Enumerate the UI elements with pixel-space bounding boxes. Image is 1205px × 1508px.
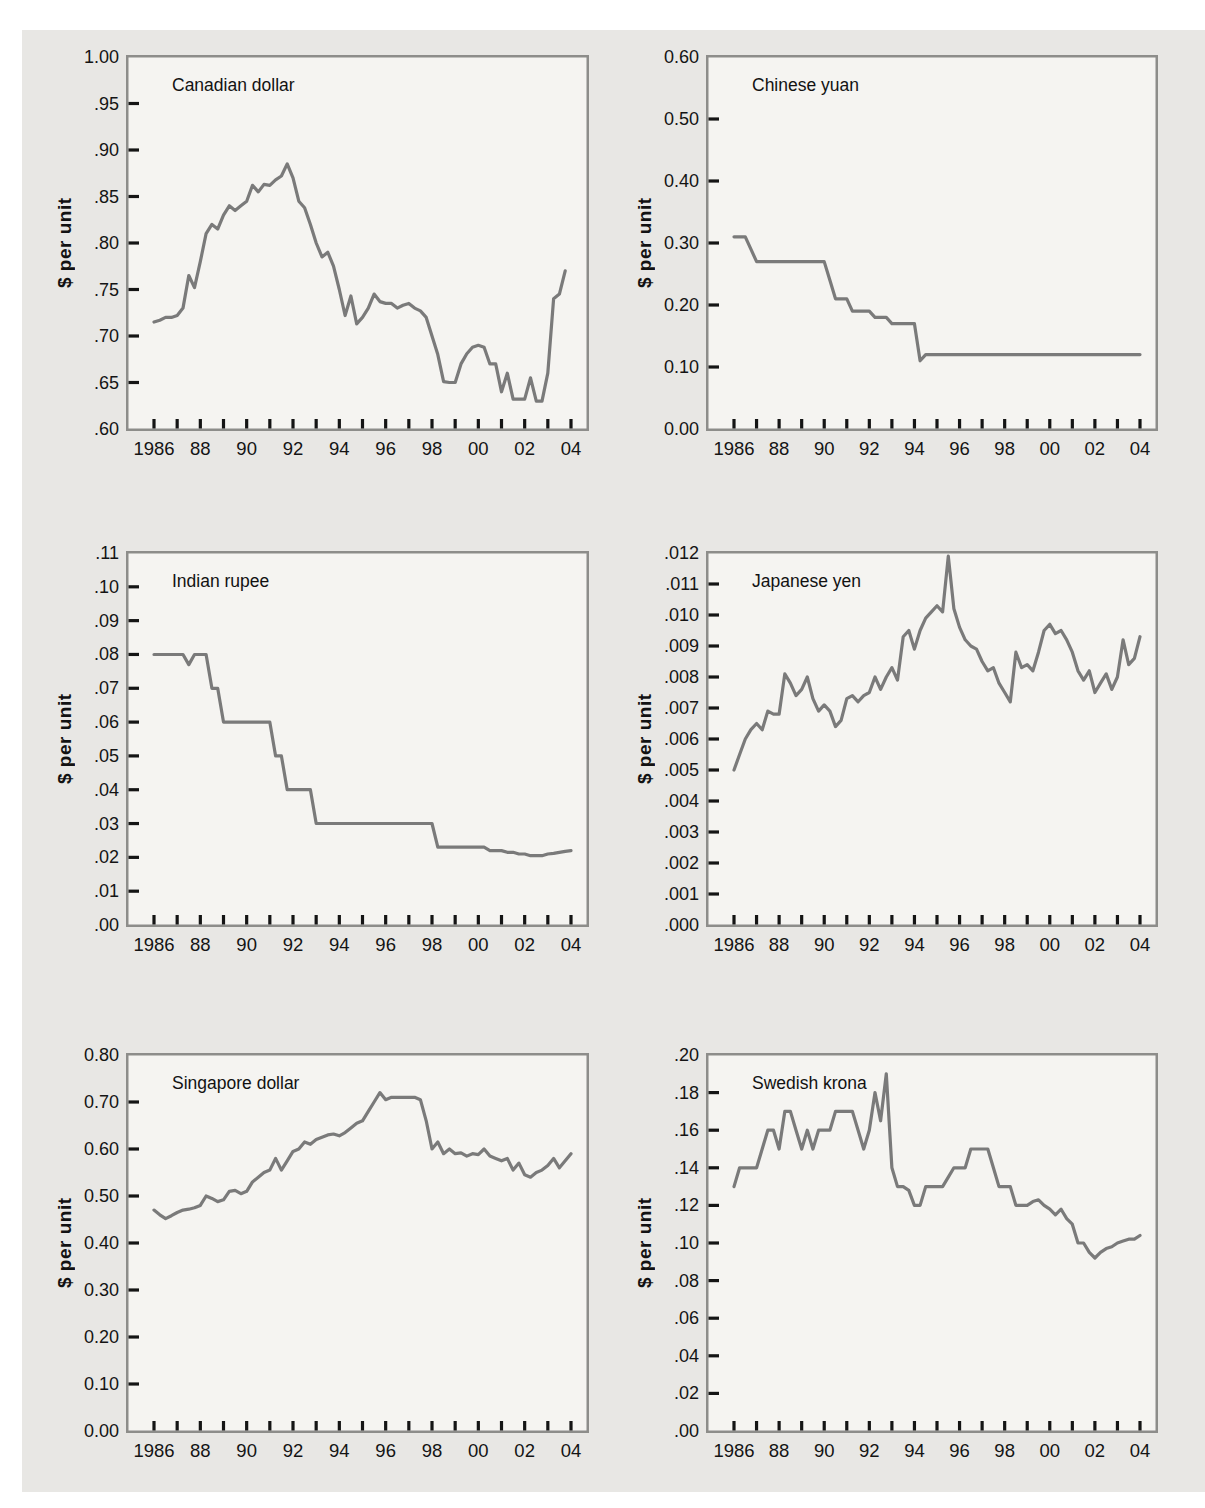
y-tick-label: 0.10 [84, 1373, 119, 1395]
y-axis-tick-labels: .20.18.16.14.12.10.08.06.04.02.00 [656, 1053, 706, 1433]
chart-title: Chinese yuan [752, 75, 859, 96]
plot-frame [707, 552, 1157, 926]
x-tick-label: 92 [283, 438, 304, 460]
y-axis-tick-labels: 0.800.700.600.500.400.300.200.100.00 [76, 1053, 126, 1433]
x-tick-label: 90 [814, 1440, 835, 1462]
x-tick-label: 02 [1085, 438, 1106, 460]
x-tick-label: 98 [422, 438, 443, 460]
x-tick-label: 88 [190, 1440, 211, 1462]
x-tick-label: 1986 [133, 934, 174, 956]
x-tick-label: 88 [769, 934, 790, 956]
y-tick-label: .06 [94, 711, 119, 733]
y-tick-label: .90 [94, 139, 119, 161]
x-tick-label: 92 [859, 934, 880, 956]
y-axis-label: $ per unit [52, 551, 78, 927]
x-tick-label: 98 [422, 934, 443, 956]
x-tick-label: 98 [994, 934, 1015, 956]
x-tick-label: 94 [329, 934, 350, 956]
y-tick-label: .004 [664, 790, 699, 812]
x-tick-label: 02 [514, 1440, 535, 1462]
x-tick-label: 98 [994, 438, 1015, 460]
x-tick-label: 92 [283, 934, 304, 956]
y-tick-label: .06 [674, 1307, 699, 1329]
y-tick-label: .16 [674, 1119, 699, 1141]
y-tick-label: .006 [664, 728, 699, 750]
x-tick-label: 88 [769, 438, 790, 460]
y-axis-tick-labels: 1.00.95.90.85.80.75.70.65.60 [76, 55, 126, 431]
plot-frame [707, 56, 1157, 430]
y-tick-label: 0.10 [664, 356, 699, 378]
x-tick-label: 90 [814, 438, 835, 460]
y-tick-label: .10 [674, 1232, 699, 1254]
x-tick-label: 00 [1039, 1440, 1060, 1462]
y-tick-label: .95 [94, 93, 119, 115]
x-tick-label: 96 [949, 934, 970, 956]
x-tick-label: 90 [236, 438, 257, 460]
y-tick-label: .005 [664, 759, 699, 781]
y-tick-label: .08 [674, 1270, 699, 1292]
x-tick-label: 02 [1085, 934, 1106, 956]
x-tick-label: 04 [1130, 934, 1151, 956]
x-tick-label: 1986 [713, 934, 754, 956]
series-line [734, 1074, 1140, 1258]
x-tick-label: 1986 [713, 438, 754, 460]
y-tick-label: .14 [674, 1157, 699, 1179]
y-tick-label: 0.70 [84, 1091, 119, 1113]
y-tick-label: .09 [94, 610, 119, 632]
y-tick-label: .80 [94, 232, 119, 254]
x-axis-tick-labels: 1986889092949698000204 [706, 929, 1158, 961]
y-tick-label: .04 [94, 779, 119, 801]
x-tick-label: 04 [561, 1440, 582, 1462]
x-axis-tick-labels: 1986889092949698000204 [706, 433, 1158, 465]
y-axis-tick-labels: 0.600.500.400.300.200.100.00 [656, 55, 706, 431]
y-tick-label: .002 [664, 852, 699, 874]
plot-frame [127, 56, 588, 430]
y-tick-label: .20 [674, 1044, 699, 1066]
y-tick-label: 0.20 [664, 294, 699, 316]
x-tick-label: 04 [561, 934, 582, 956]
x-tick-label: 90 [236, 934, 257, 956]
y-tick-label: 0.60 [84, 1138, 119, 1160]
plot-wrap: Canadian dollar 1986889092949698000204 [126, 55, 589, 431]
y-tick-label: .00 [674, 1420, 699, 1442]
x-tick-label: 92 [283, 1440, 304, 1462]
y-tick-label: .000 [664, 914, 699, 936]
y-axis-label: $ per unit [632, 1053, 658, 1433]
x-tick-label: 04 [1130, 438, 1151, 460]
y-tick-label: .75 [94, 279, 119, 301]
y-tick-label: .008 [664, 666, 699, 688]
y-tick-label: 0.50 [664, 108, 699, 130]
plot-area [126, 55, 589, 431]
x-tick-label: 96 [375, 934, 396, 956]
y-tick-label: 0.80 [84, 1044, 119, 1066]
y-tick-label: .08 [94, 643, 119, 665]
plot-area [706, 1053, 1158, 1433]
series-line [734, 237, 1140, 361]
y-tick-label: .012 [664, 542, 699, 564]
plot-wrap: Singapore dollar 1986889092949698000204 [126, 1053, 589, 1433]
y-tick-label: 0.60 [664, 46, 699, 68]
y-tick-label: .05 [94, 745, 119, 767]
x-axis-tick-labels: 1986889092949698000204 [126, 433, 589, 465]
y-tick-label: 1.00 [84, 46, 119, 68]
chart-singapore-dollar: $ per unit 0.800.700.600.500.400.300.200… [50, 1053, 625, 1508]
chart-japanese-yen: $ per unit .012.011.010.009.008.007.006.… [630, 551, 1190, 1021]
x-axis-tick-labels: 1986889092949698000204 [706, 1435, 1158, 1467]
y-tick-label: 0.40 [84, 1232, 119, 1254]
y-tick-label: 0.40 [664, 170, 699, 192]
y-tick-label: .07 [94, 677, 119, 699]
y-tick-label: 0.50 [84, 1185, 119, 1207]
plot-area [706, 551, 1158, 927]
page: { "page": { "background": "#ffffff", "pa… [0, 0, 1205, 1508]
y-tick-label: .001 [664, 883, 699, 905]
y-axis-label: $ per unit [52, 55, 78, 431]
figure-panel: $ per unit 1.00.95.90.85.80.75.70.65.60 … [22, 30, 1205, 1492]
y-tick-label: .009 [664, 635, 699, 657]
y-tick-label: .85 [94, 186, 119, 208]
x-tick-label: 88 [190, 438, 211, 460]
plot-frame [707, 1054, 1157, 1432]
x-tick-label: 88 [769, 1440, 790, 1462]
y-tick-label: .010 [664, 604, 699, 626]
y-tick-label: .03 [94, 813, 119, 835]
y-tick-label: .003 [664, 821, 699, 843]
